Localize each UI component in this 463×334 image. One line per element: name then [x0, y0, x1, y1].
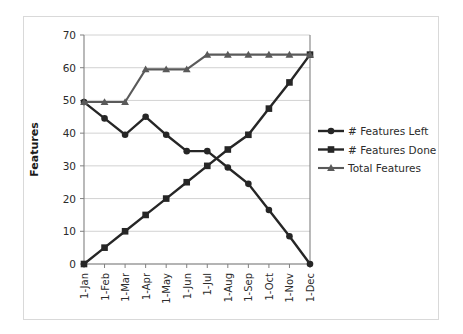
data-point-square-marker — [183, 179, 190, 186]
y-tick-label: 30 — [63, 160, 76, 172]
series-line — [84, 55, 310, 264]
data-point-circle-marker — [245, 181, 252, 188]
data-point-square-marker — [163, 195, 170, 202]
axes-group — [84, 35, 310, 264]
x-tick-label: 1-Jan — [79, 273, 90, 299]
y-axis-title: Features — [28, 122, 41, 177]
x-tick-label: 1-Jun — [182, 273, 193, 299]
x-tick-label: 1-Feb — [100, 273, 111, 301]
data-point-circle-marker — [122, 131, 129, 138]
x-tick-label: 1-Sep — [243, 273, 254, 302]
x-tick-label: 1-Dec — [305, 273, 316, 302]
data-point-square-marker — [101, 244, 108, 251]
y-axis-title-group: Features — [28, 122, 41, 177]
data-point-square-marker — [122, 228, 129, 235]
legend-item-3[interactable]: Total Features — [318, 162, 421, 174]
legend-label: # Features Done — [348, 144, 436, 156]
y-tick-label: 10 — [63, 225, 76, 237]
data-series-group — [80, 51, 314, 268]
y-tick-label: 70 — [63, 29, 76, 41]
series-2 — [81, 51, 314, 267]
data-point-square-marker — [266, 105, 273, 112]
legend-item-1[interactable]: # Features Left — [318, 125, 428, 137]
legend-item-2[interactable]: # Features Done — [318, 144, 436, 156]
series-line — [84, 102, 310, 264]
y-tick-label: 20 — [63, 193, 76, 205]
x-tick-label: 1-Mar — [120, 272, 131, 302]
data-point-circle-marker — [183, 148, 190, 155]
x-tick-label: 1-May — [161, 273, 172, 304]
y-tick-label: 0 — [69, 258, 76, 270]
data-point-square-marker — [245, 131, 252, 138]
x-tick-label: 1-Nov — [284, 273, 295, 303]
chart-container: 706050403020100 1-Jan1-Feb1-Mar1-Apr1-Ma… — [0, 0, 463, 334]
y-tick-label: 40 — [63, 127, 76, 139]
legend-label: Total Features — [347, 162, 421, 174]
data-point-circle-marker — [307, 261, 314, 268]
y-tick-label: 60 — [63, 62, 76, 74]
data-point-circle-marker — [328, 128, 335, 135]
data-point-square-marker — [81, 261, 88, 268]
legend-label: # Features Left — [348, 125, 428, 137]
series-line — [84, 55, 310, 102]
data-point-square-marker — [328, 146, 335, 153]
x-tick-label: 1-Aug — [223, 273, 234, 302]
data-point-square-marker — [286, 79, 293, 86]
data-point-circle-marker — [142, 113, 149, 120]
data-point-square-marker — [142, 212, 149, 219]
data-point-circle-marker — [101, 115, 108, 122]
data-point-circle-marker — [204, 148, 211, 155]
x-tick-labels-group: 1-Jan1-Feb1-Mar1-Apr1-May1-Jun1-Jul1-Aug… — [79, 264, 316, 304]
x-tick-label: 1-Oct — [264, 273, 275, 301]
data-point-square-marker — [204, 163, 211, 170]
chart-svg-canvas: 706050403020100 1-Jan1-Feb1-Mar1-Apr1-Ma… — [0, 0, 463, 334]
y-tick-labels-group: 706050403020100 — [63, 29, 84, 270]
x-tick-label: 1-Jul — [202, 273, 213, 296]
gridlines-group — [84, 35, 310, 264]
data-point-circle-marker — [163, 131, 170, 138]
x-tick-label: 1-Apr — [141, 272, 152, 300]
series-1 — [81, 99, 314, 268]
y-tick-label: 50 — [63, 94, 76, 106]
data-point-circle-marker — [266, 207, 273, 214]
data-point-circle-marker — [286, 233, 293, 240]
chart-legend: # Features Left# Features DoneTotal Feat… — [318, 125, 436, 174]
data-point-circle-marker — [225, 164, 232, 171]
data-point-square-marker — [225, 146, 232, 153]
